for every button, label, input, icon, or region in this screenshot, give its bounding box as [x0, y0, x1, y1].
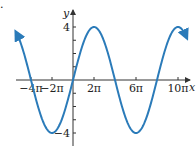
sine-graph: xy−4π−2π2π6π10π4−4 . [0, 0, 196, 148]
corner-mark: . [0, 0, 4, 11]
y-tick-label: 4 [63, 21, 70, 34]
x-tick-label: 10π [167, 82, 188, 95]
x-tick-label: 2π [87, 82, 101, 95]
y-axis-label: y [62, 7, 70, 20]
x-tick-label: −2π [40, 82, 63, 95]
tick-labels: xy−4π−2π2π6π10π4−4 [19, 7, 196, 140]
axes [16, 10, 190, 146]
x-tick-label: 6π [129, 82, 143, 95]
x-axis-label: x [189, 81, 196, 94]
